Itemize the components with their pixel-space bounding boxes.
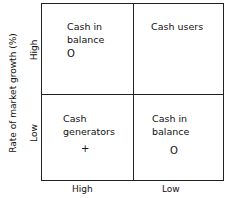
circle-marker: O [170, 145, 178, 156]
x-tick-low: Low [162, 184, 180, 194]
x-tick-high: High [72, 184, 93, 194]
y-axis-title: Rate of market growth (%) [8, 33, 18, 153]
horizontal-divider [42, 94, 223, 95]
label-line: balance [152, 125, 189, 138]
y-tick-high: High [29, 38, 39, 62]
plus-marker: + [81, 143, 89, 154]
circle-marker: O [67, 48, 75, 59]
label-line: Cash [63, 112, 115, 125]
quadrant-bottom-right-label: Cash in balance [152, 112, 189, 138]
matrix-grid: Cash in balance O Cash users Cash genera… [41, 3, 224, 181]
label-line: Cash in [67, 20, 104, 33]
quadrant-bottom-left-label: Cash generators [63, 112, 115, 138]
vertical-divider [133, 4, 134, 180]
label-line: Cash users [151, 20, 203, 33]
label-line: balance [67, 33, 104, 46]
quadrant-top-left-label: Cash in balance [67, 20, 104, 46]
y-tick-low: Low [29, 123, 39, 143]
quadrant-top-right-label: Cash users [151, 20, 203, 33]
label-line: Cash in [152, 112, 189, 125]
label-line: generators [63, 125, 115, 138]
